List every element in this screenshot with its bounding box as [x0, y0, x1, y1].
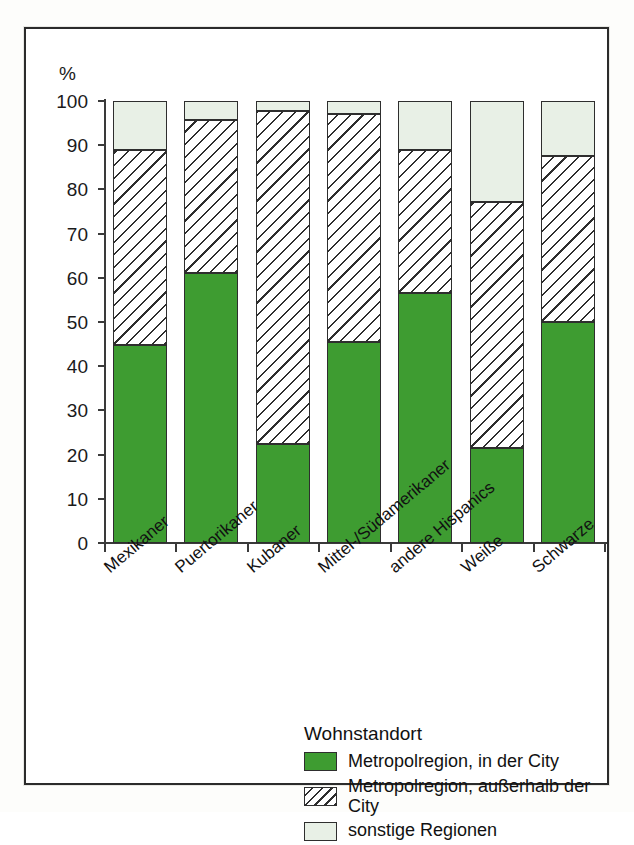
segment-other-regions — [398, 101, 452, 150]
segment-outside-city — [327, 114, 381, 342]
y-tick-label: 60 — [42, 269, 88, 288]
legend-swatch-solid-green-icon — [304, 752, 337, 771]
legend-item-outside-city: Metropolregion, außerhalb der City — [304, 777, 607, 817]
bar-1 — [113, 101, 167, 543]
bar-4 — [327, 101, 381, 543]
y-tick-label: 100 — [42, 92, 88, 111]
bar-6 — [470, 101, 524, 543]
legend-item-city: Metropolregion, in der City — [304, 752, 607, 772]
segment-other-regions — [184, 101, 238, 120]
y-tick-label: 80 — [42, 180, 88, 199]
legend-label-city: Metropolregion, in der City — [348, 752, 559, 772]
x-tick-mark — [104, 544, 106, 552]
y-tick-label: 20 — [42, 446, 88, 465]
x-tick-mark — [461, 544, 463, 552]
y-tick-label: 30 — [42, 401, 88, 420]
y-tick-label: 70 — [42, 225, 88, 244]
segment-outside-city — [470, 202, 524, 448]
y-tick-label: 50 — [42, 313, 88, 332]
legend-label-other-regions: sonstige Regionen — [348, 821, 497, 841]
legend-title: Wohnstandort — [304, 723, 607, 745]
segment-outside-city — [541, 156, 595, 322]
segment-outside-city — [256, 111, 310, 444]
segment-city — [184, 273, 238, 543]
x-tick-mark — [318, 544, 320, 552]
plot-area — [104, 101, 604, 543]
segment-outside-city — [184, 120, 238, 273]
legend-swatch-hatched-icon — [304, 787, 337, 806]
y-tick-label: 0 — [42, 534, 88, 553]
bar-7 — [541, 101, 595, 543]
legend-item-other-regions: sonstige Regionen — [304, 821, 607, 841]
y-tick-label: 10 — [42, 490, 88, 509]
segment-city — [541, 322, 595, 543]
y-tick-label: 90 — [42, 136, 88, 155]
x-tick-mark — [604, 544, 606, 552]
segment-other-regions — [113, 101, 167, 150]
x-tick-mark — [247, 544, 249, 552]
segment-other-regions — [470, 101, 524, 202]
segment-outside-city — [113, 150, 167, 345]
segment-other-regions — [256, 101, 310, 111]
x-tick-mark — [533, 544, 535, 552]
segment-other-regions — [327, 101, 381, 114]
bar-3 — [256, 101, 310, 543]
segment-other-regions — [541, 101, 595, 156]
x-tick-mark — [175, 544, 177, 552]
legend-label-outside-city: Metropolregion, außerhalb der City — [348, 777, 607, 817]
y-axis-unit-label: % — [59, 63, 76, 85]
bar-2 — [184, 101, 238, 543]
chart-legend: Wohnstandort Metropolregion, in der City… — [304, 723, 607, 845]
x-tick-mark — [390, 544, 392, 552]
legend-swatch-pale-green-icon — [304, 822, 337, 841]
y-tick-label: 40 — [42, 357, 88, 376]
segment-outside-city — [398, 150, 452, 293]
chart-frame: % 1009080706050403020100 MexikanerPuerto… — [24, 27, 609, 785]
